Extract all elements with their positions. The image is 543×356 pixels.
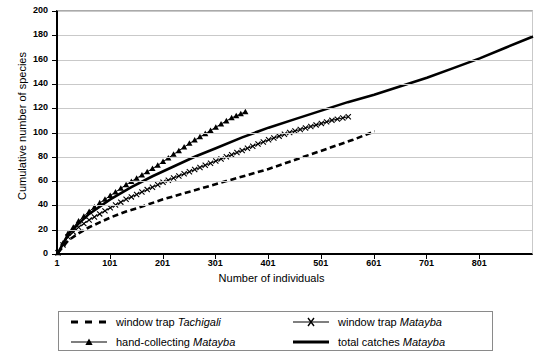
series-marker-x <box>208 161 213 166</box>
series-marker-x <box>129 194 134 199</box>
y-tick-mark <box>52 205 56 206</box>
y-tick-mark <box>52 181 56 182</box>
y-tick-label: 200 <box>22 6 48 15</box>
series-marker-x <box>192 167 197 172</box>
series-marker-x <box>97 211 102 216</box>
series-0 <box>58 131 375 253</box>
legend-swatch <box>291 336 331 348</box>
y-tick-mark <box>52 108 56 109</box>
series-marker-triangle <box>223 118 229 124</box>
series-marker-x <box>324 119 329 124</box>
series-marker-triangle <box>155 162 161 168</box>
x-tick-label: 401 <box>248 258 288 268</box>
gridline <box>58 133 532 134</box>
x-tick-label: 1 <box>37 258 77 268</box>
series-marker-x <box>87 217 92 222</box>
series-marker-x <box>92 214 97 219</box>
series-marker-x <box>271 135 276 140</box>
legend-label: window trap Tachigali <box>116 316 221 328</box>
series-marker-x <box>245 146 250 151</box>
series-marker-x <box>134 192 139 197</box>
series-marker-triangle <box>176 148 182 154</box>
x-tick-mark <box>426 255 427 259</box>
x-tick-label: 801 <box>459 258 499 268</box>
x-tick-label: 201 <box>143 258 183 268</box>
legend-swatch <box>69 316 109 328</box>
legend-label: total catches Matayba <box>338 336 445 348</box>
series-marker-x <box>171 175 176 180</box>
x-tick-label: 301 <box>195 258 235 268</box>
series-marker-triangle <box>242 109 248 115</box>
series-marker-x <box>102 208 107 213</box>
x-tick-label: 501 <box>301 258 341 268</box>
legend-label: hand-collecting Matayba <box>116 336 235 348</box>
series-marker-x <box>155 182 160 187</box>
gridline <box>58 108 532 109</box>
y-axis-title: Cumulative number of species <box>16 26 28 226</box>
series-marker-x <box>319 121 324 126</box>
series-marker-x <box>240 148 245 153</box>
series-marker-x <box>298 127 303 132</box>
y-tick-mark <box>52 230 56 231</box>
series-marker-triangle <box>144 169 150 175</box>
x-tick-mark <box>268 255 269 259</box>
plot-area <box>56 10 533 255</box>
legend-entry: window trap Tachigali <box>59 316 281 328</box>
series-marker-x <box>261 139 266 144</box>
series-marker-x <box>213 158 218 163</box>
x-tick-label: 701 <box>406 258 446 268</box>
gridline <box>58 230 532 231</box>
gridline <box>58 205 532 206</box>
series-line <box>58 37 533 253</box>
legend-entry: total catches Matayba <box>281 336 494 348</box>
series-marker-x <box>255 141 260 146</box>
y-tick-mark <box>52 11 56 12</box>
y-tick-label: 0 <box>22 249 48 258</box>
gridline <box>58 157 532 158</box>
legend-swatch <box>69 336 109 348</box>
series-marker-x <box>187 169 192 174</box>
series-marker-x <box>145 187 150 192</box>
y-tick-mark <box>52 133 56 134</box>
legend-label: window trap Matayba <box>338 316 442 328</box>
series-marker-x <box>197 165 202 170</box>
series-marker-triangle <box>192 137 198 143</box>
gridline <box>58 181 532 182</box>
x-tick-mark <box>321 255 322 259</box>
series-marker-triangle <box>149 165 155 171</box>
series-marker-triangle <box>160 159 166 165</box>
series-marker-x <box>118 200 123 205</box>
legend-entry: window trap Matayba <box>281 316 494 328</box>
series-marker-triangle <box>197 134 203 140</box>
series-marker-x <box>123 197 128 202</box>
series-marker-triangle <box>218 121 224 127</box>
gridline <box>58 11 532 12</box>
gridline <box>58 84 532 85</box>
series-marker-triangle <box>213 124 219 130</box>
y-tick-label: 20 <box>22 225 48 234</box>
series-marker-triangle <box>134 175 140 181</box>
chart-screenshot: 020406080100120140160180200 110120130140… <box>0 0 543 356</box>
series-marker-triangle <box>123 182 129 188</box>
series-line <box>58 117 348 253</box>
series-marker-triangle <box>186 140 192 146</box>
y-tick-mark <box>52 254 56 255</box>
series-marker-x <box>234 150 239 155</box>
series-marker-triangle <box>181 144 187 150</box>
series-marker-x <box>250 144 255 149</box>
series-marker-x <box>182 171 187 176</box>
series-marker-x <box>139 189 144 194</box>
x-tick-mark <box>479 255 480 259</box>
gridline <box>58 35 532 36</box>
legend-entry: hand-collecting Matayba <box>59 336 281 348</box>
x-tick-label: 101 <box>90 258 130 268</box>
series-marker-x <box>176 173 181 178</box>
series-marker-x <box>266 137 271 142</box>
x-tick-mark <box>110 255 111 259</box>
series-marker-triangle <box>118 185 124 191</box>
x-axis-title: Number of individuals <box>0 272 543 284</box>
x-tick-mark <box>374 255 375 259</box>
x-tick-mark <box>215 255 216 259</box>
series-3 <box>58 37 533 253</box>
y-tick-mark <box>52 157 56 158</box>
